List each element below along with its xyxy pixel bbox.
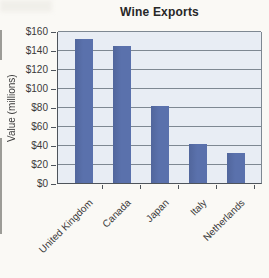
y-tick-60 <box>51 127 56 128</box>
y-tick-100 <box>51 89 56 90</box>
x-tick-5 <box>254 185 255 189</box>
x-label-canada: Canada <box>100 197 133 230</box>
x-label-italy: Italy <box>188 197 209 218</box>
y-tick-label-100: $100 <box>12 83 48 95</box>
scanned-bar-chart: Wine Exports Value (millions) $0$20$40$6… <box>0 0 269 278</box>
y-tick-label-20: $20 <box>12 159 48 171</box>
y-tick-40 <box>51 146 56 147</box>
scan-smudge-artifact <box>0 0 52 12</box>
bar-canada <box>113 46 131 183</box>
y-tick-label-140: $140 <box>12 45 48 57</box>
x-tick-2 <box>140 185 141 189</box>
bar-netherlands <box>227 153 245 183</box>
x-label-japan: Japan <box>144 197 171 224</box>
x-tick-4 <box>216 185 217 189</box>
y-tick-label-40: $40 <box>12 140 48 152</box>
y-tick-label-0: $0 <box>12 178 48 190</box>
y-tick-label-160: $160 <box>12 26 48 38</box>
x-tick-3 <box>178 185 179 189</box>
bar-united-kingdom <box>75 39 93 183</box>
bar-japan <box>151 106 169 183</box>
scan-edge-artifact <box>0 138 2 234</box>
y-tick-80 <box>51 108 56 109</box>
chart-title: Wine Exports <box>57 5 262 19</box>
plot-area <box>57 32 262 184</box>
y-tick-label-120: $120 <box>12 64 48 76</box>
x-label-united-kingdom: United Kingdom <box>37 197 95 255</box>
gridline-160 <box>58 31 261 32</box>
y-tick-label-80: $80 <box>12 102 48 114</box>
y-tick-0 <box>51 184 56 185</box>
y-tick-140 <box>51 51 56 52</box>
y-tick-120 <box>51 70 56 71</box>
y-tick-20 <box>51 165 56 166</box>
y-tick-160 <box>51 32 56 33</box>
scan-edge-artifact <box>0 30 2 60</box>
y-tick-label-60: $60 <box>12 121 48 133</box>
x-tick-1 <box>102 185 103 189</box>
bar-italy <box>189 144 207 183</box>
